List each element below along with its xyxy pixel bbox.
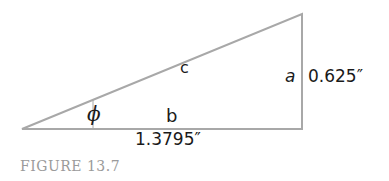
opposite-value: 0.625″ xyxy=(308,68,363,85)
hypotenuse-label: c xyxy=(180,60,189,76)
figure-caption: FIGURE 13.7 xyxy=(20,158,120,174)
triangle-figure xyxy=(0,0,389,181)
right-triangle xyxy=(22,14,302,129)
opposite-label: a xyxy=(285,68,295,85)
angle-phi-label: ϕ xyxy=(87,104,101,124)
adjacent-value: 1.3795″ xyxy=(135,131,201,148)
adjacent-label: b xyxy=(166,107,177,125)
